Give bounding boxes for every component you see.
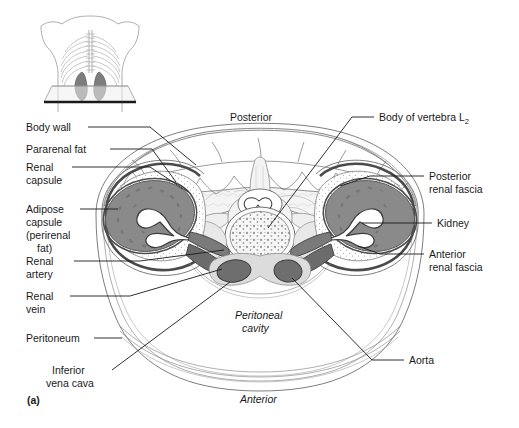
label-posterior: Posterior bbox=[230, 111, 273, 123]
label-inferior-vena-cava-line2: vena cava bbox=[46, 377, 94, 389]
anatomy-figure-panel-a: Posterior Anterior Peritoneal cavity Bod… bbox=[0, 0, 519, 428]
label-body-of-vertebra-subscript: 2 bbox=[465, 117, 469, 126]
label-renal-vein-line2: vein bbox=[26, 303, 45, 315]
label-inferior-vena-cava-line1: Inferior bbox=[52, 364, 85, 376]
label-peritoneal-cavity-line1: Peritoneal bbox=[235, 309, 283, 321]
label-renal-artery-line2: artery bbox=[26, 268, 54, 280]
label-peritoneal-cavity-line2: cavity bbox=[242, 322, 270, 334]
label-body-wall: Body wall bbox=[26, 121, 71, 133]
label-adipose-capsule-line3: (perirenal bbox=[26, 229, 70, 241]
label-posterior-renal-fascia-line2: renal fascia bbox=[429, 183, 483, 195]
label-anterior: Anterior bbox=[239, 393, 277, 405]
label-renal-artery-line1: Renal bbox=[26, 255, 53, 267]
label-body-of-vertebra-text: Body of vertebra L bbox=[379, 111, 465, 123]
inset-section-plane bbox=[44, 86, 136, 102]
label-pararenal-fat: Pararenal fat bbox=[26, 143, 86, 155]
label-peritoneum: Peritoneum bbox=[26, 332, 80, 344]
label-renal-capsule-line2: capsule bbox=[26, 174, 62, 186]
panel-label: (a) bbox=[27, 394, 40, 406]
label-anterior-renal-fascia-line2: renal fascia bbox=[429, 261, 483, 273]
label-kidney: Kidney bbox=[437, 217, 470, 229]
label-adipose-capsule-line4: fat) bbox=[37, 242, 52, 254]
label-aorta: Aorta bbox=[409, 354, 434, 366]
label-anterior-renal-fascia-line1: Anterior bbox=[429, 248, 466, 260]
label-posterior-renal-fascia-line1: Posterior bbox=[429, 170, 472, 182]
label-adipose-capsule-line1: Adipose bbox=[26, 203, 64, 215]
label-renal-vein-line1: Renal bbox=[26, 290, 53, 302]
label-renal-capsule-line1: Renal bbox=[26, 161, 53, 173]
cross-section-diagram: Posterior Anterior Peritoneal cavity Bod… bbox=[0, 0, 519, 428]
label-adipose-capsule-line2: capsule bbox=[26, 216, 62, 228]
